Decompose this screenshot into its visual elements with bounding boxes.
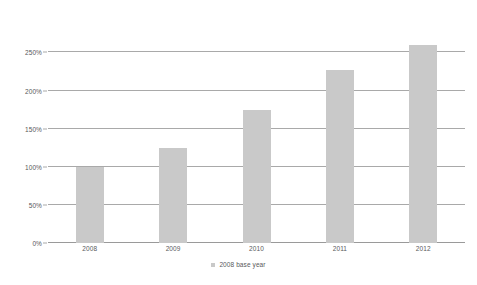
y-axis-label: 100%	[25, 163, 42, 170]
y-axis-label: 50%	[29, 201, 42, 208]
y-axis-label: 0%	[32, 240, 42, 247]
x-axis-label: 2008	[82, 245, 97, 252]
y-axis-label: 150%	[25, 125, 42, 132]
y-axis-label: 250%	[25, 49, 42, 56]
y-axis-label: 200%	[25, 87, 42, 94]
y-tick-mark	[43, 243, 47, 244]
bar	[243, 110, 271, 243]
x-axis-label: 2009	[166, 245, 181, 252]
plot-area: 0%50%100%150%200%250%	[48, 20, 465, 243]
y-tick-mark	[43, 128, 47, 129]
bar	[159, 148, 187, 243]
legend-label: 2008 base year	[219, 261, 265, 268]
chart-legend: 2008 base year	[0, 261, 477, 268]
bar-chart: 0%50%100%150%200%250% 200820092010201120…	[0, 0, 477, 285]
y-tick-mark	[43, 90, 47, 91]
bar	[76, 167, 104, 243]
bar	[409, 45, 437, 243]
legend-swatch-icon	[211, 263, 215, 267]
y-tick-mark	[43, 204, 47, 205]
bars-group	[48, 20, 465, 243]
x-axis-ticks: 20082009201020112012	[48, 245, 465, 259]
y-tick-mark	[43, 166, 47, 167]
x-axis-label: 2012	[416, 245, 431, 252]
y-tick-mark	[43, 52, 47, 53]
x-axis-label: 2010	[249, 245, 264, 252]
bar	[326, 70, 354, 243]
x-axis-label: 2011	[333, 245, 347, 252]
